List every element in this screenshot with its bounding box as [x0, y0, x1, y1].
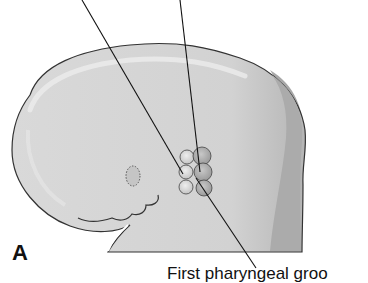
arch-3a [179, 180, 193, 194]
panel-label: A [12, 240, 28, 266]
arch-1a [180, 150, 194, 164]
head-outline [12, 43, 305, 252]
first-pharyngeal-groove-label: First pharyngeal groo [167, 264, 328, 283]
arch-1b [193, 147, 211, 165]
embryo-diagram: A First pharyngeal groo [0, 0, 368, 283]
arch-2a [179, 165, 193, 179]
otic-placode [126, 166, 140, 186]
embryo-illustration [0, 0, 368, 283]
